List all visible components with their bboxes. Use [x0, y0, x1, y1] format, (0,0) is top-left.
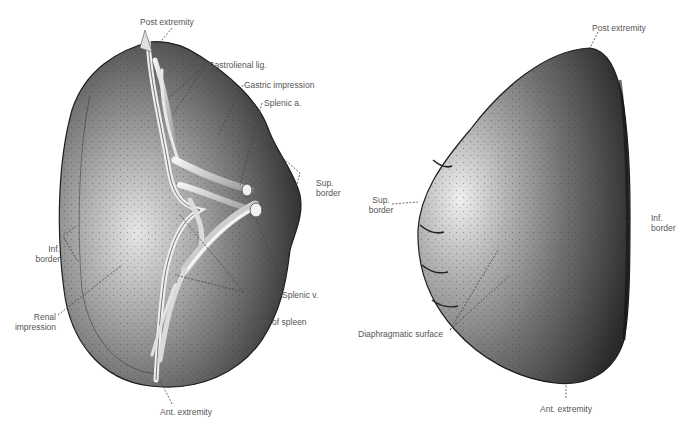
label-right-post-extremity: Post extremity: [592, 23, 646, 33]
label-right-sup-border-line2: border: [366, 205, 396, 215]
label-left-ant-extremity: Ant. extremity: [160, 407, 212, 417]
label-right-inf-border: Inf. border: [651, 213, 676, 233]
label-left-post-extremity: Post extremity: [140, 17, 194, 27]
label-right-ant-extremity: Ant. extremity: [540, 404, 592, 414]
label-splenic-artery: Splenic a.: [264, 98, 301, 108]
label-splenic-vein: Splenic v.: [282, 290, 318, 300]
spleen-illustration: [0, 0, 694, 431]
label-left-sup-border-line1: Sup.: [316, 178, 341, 188]
label-renal-impression-line1: Renal: [4, 312, 56, 322]
label-renal-impression-line2: impression: [4, 322, 56, 332]
label-right-inf-border-line2: border: [651, 223, 676, 233]
right-spleen-diaphragmatic-view: [418, 48, 630, 384]
label-gastrolienal-lig: Gastrolienal lig.: [208, 60, 267, 70]
label-left-sup-border-line2: border: [316, 188, 341, 198]
label-hilum-of-spleen: Hilum of spleen: [248, 317, 307, 327]
label-right-sup-border: Sup. border: [366, 195, 396, 215]
label-right-inf-border-line1: Inf.: [651, 213, 676, 223]
label-left-inf-border-line2: border: [30, 254, 60, 264]
label-left-sup-border: Sup. border: [316, 178, 341, 198]
label-diaphragmatic-surface: Diaphragmatic surface: [358, 329, 443, 339]
label-left-inf-border-line1: Inf.: [30, 244, 60, 254]
label-renal-impression: Renal impression: [4, 312, 56, 332]
label-right-sup-border-line1: Sup.: [366, 195, 396, 205]
label-gastric-impression: Gastric impression: [244, 80, 314, 90]
label-left-inf-border: Inf. border: [30, 244, 60, 264]
